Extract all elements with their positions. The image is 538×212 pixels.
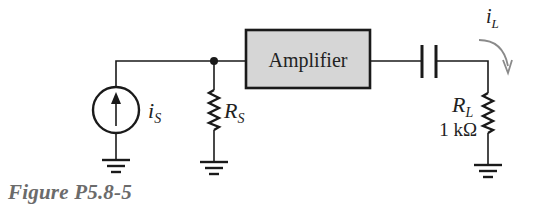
ground-icon <box>474 165 502 177</box>
resistor-rl-value: 1 kΩ <box>439 119 477 140</box>
current-source-label: iS <box>148 98 161 126</box>
resistor-rs-icon <box>209 90 219 130</box>
current-source-icon <box>93 87 139 133</box>
amplifier-label: Amplifier <box>269 49 348 72</box>
input-wire <box>116 61 246 87</box>
ground-icon <box>102 160 130 172</box>
resistor-rl-label: RL <box>451 92 473 120</box>
ground-icon <box>200 162 228 174</box>
figure-caption: Figure P5.8-5 <box>8 180 132 205</box>
resistor-rl-icon <box>483 93 493 133</box>
load-wire <box>436 61 488 93</box>
capacitor-icon <box>422 45 436 78</box>
load-current-arrow-icon <box>479 40 512 73</box>
resistor-rs-label: RS <box>223 98 244 126</box>
load-current-label: iL <box>486 5 499 31</box>
